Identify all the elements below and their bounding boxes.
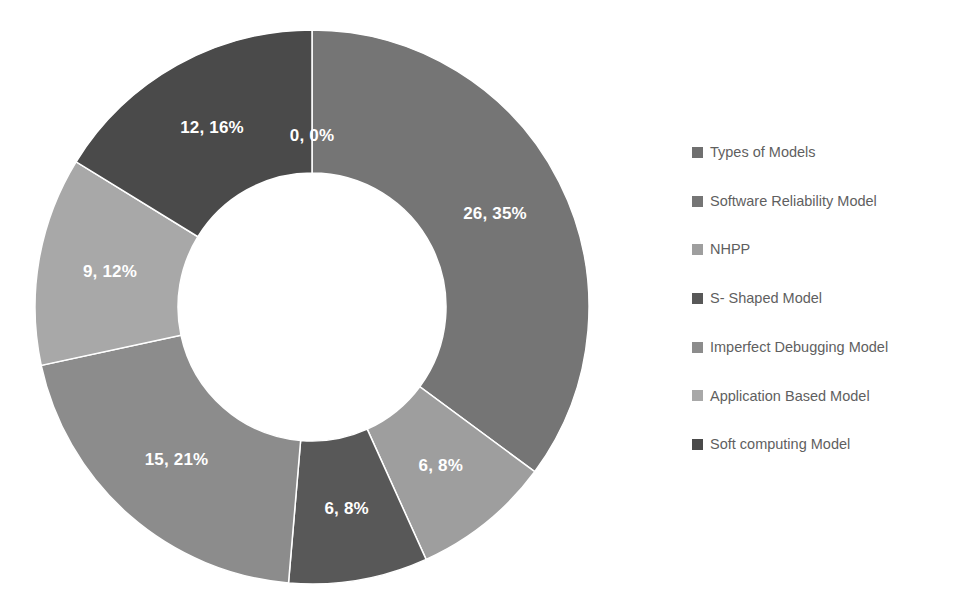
donut-chart: 0, 0%26, 35%6, 8%6, 8%15, 21%9, 12%12, 1… xyxy=(0,0,640,605)
legend-item-label: Application Based Model xyxy=(710,389,870,404)
slice-data-label: 6, 8% xyxy=(419,456,463,475)
slice-data-label: 0, 0% xyxy=(290,126,334,145)
legend-item-label: S- Shaped Model xyxy=(710,291,822,306)
chart-legend: Types of ModelsSoftware Reliability Mode… xyxy=(692,128,942,469)
legend-item[interactable]: Software Reliability Model xyxy=(692,177,942,226)
legend-swatch-icon xyxy=(692,147,703,158)
legend-swatch-icon xyxy=(692,342,703,353)
legend-item[interactable]: S- Shaped Model xyxy=(692,274,942,323)
donut-slices xyxy=(35,30,589,584)
slice-data-label: 12, 16% xyxy=(180,118,244,137)
slice-data-label: 6, 8% xyxy=(324,499,368,518)
legend-item-label: Types of Models xyxy=(710,145,816,160)
slice-data-label: 26, 35% xyxy=(463,204,527,223)
legend-swatch-icon xyxy=(692,196,703,207)
legend-swatch-icon xyxy=(692,439,703,450)
legend-item-label: Imperfect Debugging Model xyxy=(710,340,888,355)
slice-data-label: 9, 12% xyxy=(83,262,137,281)
legend-item-label: NHPP xyxy=(710,242,750,257)
legend-item[interactable]: Soft computing Model xyxy=(692,420,942,469)
legend-item[interactable]: NHPP xyxy=(692,225,942,274)
legend-swatch-icon xyxy=(692,390,703,401)
legend-item-label: Soft computing Model xyxy=(710,437,850,452)
legend-item[interactable]: Imperfect Debugging Model xyxy=(692,323,942,372)
slice-data-label: 15, 21% xyxy=(145,450,209,469)
legend-swatch-icon xyxy=(692,293,703,304)
donut-chart-svg: 0, 0%26, 35%6, 8%6, 8%15, 21%9, 12%12, 1… xyxy=(0,0,640,605)
legend-swatch-icon xyxy=(692,244,703,255)
donut-slice[interactable] xyxy=(312,30,589,472)
legend-item[interactable]: Types of Models xyxy=(692,128,942,177)
legend-item[interactable]: Application Based Model xyxy=(692,371,942,420)
legend-item-label: Software Reliability Model xyxy=(710,194,877,209)
